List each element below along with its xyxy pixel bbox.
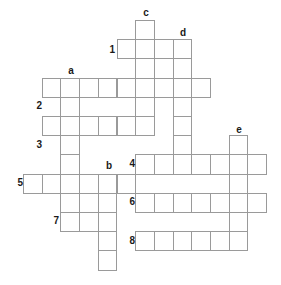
crossword-cell[interactable] (42, 78, 62, 98)
crossword-cell[interactable] (79, 78, 99, 98)
across-clue-number-8: 8 (123, 236, 135, 246)
crossword-cell[interactable] (210, 231, 230, 251)
crossword-cell[interactable] (210, 193, 230, 213)
crossword-cell[interactable] (60, 116, 80, 136)
crossword-cell[interactable] (117, 174, 137, 194)
crossword-cell[interactable] (173, 154, 193, 174)
crossword-cell[interactable] (173, 193, 193, 213)
down-clue-letter-b: b (103, 161, 115, 171)
crossword-cell[interactable] (154, 193, 174, 213)
crossword-cell[interactable] (60, 97, 80, 117)
across-clue-number-5: 5 (11, 178, 23, 188)
crossword-cell[interactable] (154, 231, 174, 251)
across-clue-number-1: 1 (103, 45, 115, 55)
crossword-cell[interactable] (23, 174, 43, 194)
crossword-puzzle-grid: 12345678abcde (0, 0, 281, 285)
crossword-cell[interactable] (79, 174, 99, 194)
crossword-cell[interactable] (210, 154, 230, 174)
crossword-cell[interactable] (247, 193, 267, 213)
crossword-cell[interactable] (154, 154, 174, 174)
crossword-cell[interactable] (135, 193, 155, 213)
crossword-cell[interactable] (154, 39, 174, 59)
crossword-cell[interactable] (98, 193, 118, 213)
crossword-cell[interactable] (98, 174, 118, 194)
crossword-cell[interactable] (173, 231, 193, 251)
crossword-cell[interactable] (98, 116, 118, 136)
down-clue-letter-e: e (233, 125, 245, 135)
crossword-cell[interactable] (135, 154, 155, 174)
crossword-cell[interactable] (229, 193, 249, 213)
crossword-cell[interactable] (79, 116, 99, 136)
crossword-cell[interactable] (173, 78, 193, 98)
crossword-cell[interactable] (117, 78, 137, 98)
across-clue-number-4: 4 (123, 159, 135, 169)
crossword-cell[interactable] (98, 231, 118, 251)
crossword-cell[interactable] (135, 97, 155, 117)
across-clue-number-7: 7 (47, 216, 59, 226)
crossword-cell[interactable] (135, 20, 155, 40)
crossword-cell[interactable] (117, 39, 137, 59)
crossword-cell[interactable] (135, 39, 155, 59)
crossword-cell[interactable] (191, 231, 211, 251)
crossword-cell[interactable] (191, 78, 211, 98)
crossword-cell[interactable] (135, 116, 155, 136)
crossword-cell[interactable] (173, 135, 193, 155)
down-clue-letter-c: c (140, 8, 152, 18)
crossword-cell[interactable] (247, 154, 267, 174)
across-clue-number-3: 3 (30, 140, 42, 150)
across-clue-number-6: 6 (123, 197, 135, 207)
crossword-cell[interactable] (173, 97, 193, 117)
crossword-cell[interactable] (229, 135, 249, 155)
crossword-cell[interactable] (117, 116, 137, 136)
crossword-cell[interactable] (229, 174, 249, 194)
crossword-cell[interactable] (98, 250, 118, 270)
crossword-cell[interactable] (173, 58, 193, 78)
crossword-cell[interactable] (191, 193, 211, 213)
crossword-cell[interactable] (154, 78, 174, 98)
crossword-cell[interactable] (98, 212, 118, 232)
crossword-cell[interactable] (42, 174, 62, 194)
crossword-cell[interactable] (229, 231, 249, 251)
across-clue-number-2: 2 (30, 101, 42, 111)
crossword-cell[interactable] (229, 154, 249, 174)
crossword-cell[interactable] (135, 231, 155, 251)
crossword-cell[interactable] (229, 212, 249, 232)
crossword-cell[interactable] (173, 116, 193, 136)
down-clue-letter-d: d (177, 28, 189, 38)
crossword-cell[interactable] (191, 154, 211, 174)
crossword-cell[interactable] (60, 135, 80, 155)
crossword-cell[interactable] (173, 39, 193, 59)
crossword-cell[interactable] (60, 154, 80, 174)
crossword-cell[interactable] (42, 116, 62, 136)
crossword-cell[interactable] (135, 58, 155, 78)
crossword-cell[interactable] (98, 78, 118, 98)
crossword-cell[interactable] (79, 212, 99, 232)
crossword-cell[interactable] (60, 212, 80, 232)
crossword-cell[interactable] (135, 78, 155, 98)
crossword-cell[interactable] (60, 78, 80, 98)
crossword-cell[interactable] (60, 174, 80, 194)
crossword-cell[interactable] (60, 193, 80, 213)
down-clue-letter-a: a (65, 66, 77, 76)
